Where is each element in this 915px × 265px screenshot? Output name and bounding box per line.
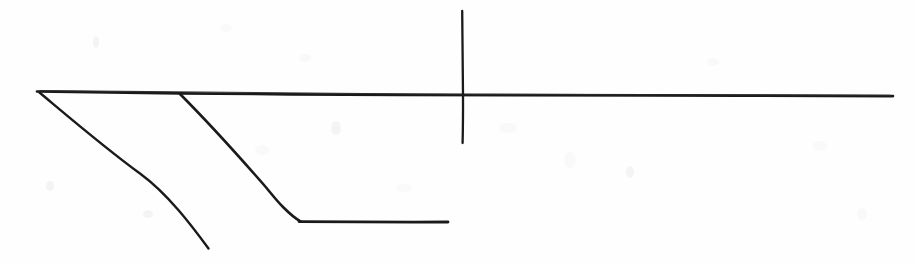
line-diagram-svg [0, 0, 915, 265]
vertical-tick-mark [462, 11, 463, 143]
figure-canvas: Hand-drawn line diagram Scanned pen sket… [0, 0, 915, 265]
paper-background [0, 0, 915, 265]
